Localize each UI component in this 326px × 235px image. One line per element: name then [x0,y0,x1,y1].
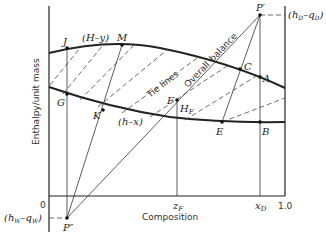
point-C [238,67,242,71]
point-K [101,108,105,112]
label-A: A [262,73,270,84]
label-P-prime: P′ [255,2,266,13]
label-J: J [61,36,68,47]
label-G: G [57,97,65,108]
label-hd-qd: (hD–qD) [288,9,323,21]
enthalpy-composition-diagram: J M G K F C A E B P′ P″ HF (H–y) (h–x) T… [0,0,326,235]
point-E [220,120,224,124]
label-upper-curve: (H–y) [82,32,109,43]
y-axis-label: Enthalpy/unit mass [31,58,41,145]
point-A [258,75,262,79]
label-hw-qw: (hW–qW) [4,212,42,224]
tick-xD: xD [255,200,267,213]
label-P-double-prime: P″ [62,222,74,233]
point-G [65,92,69,96]
point-B [258,120,262,124]
label-M: M [116,32,128,43]
label-E: E [215,126,224,137]
label-C: C [244,61,252,72]
label-tie-lines: Tie lines [144,69,180,100]
label-balance: balance [207,31,239,64]
point-F [175,98,179,102]
zero-label: 0 [40,200,46,210]
operating-line-K-M [67,45,122,218]
label-HF: HF [179,103,195,116]
x-axis-label: Composition [142,212,198,222]
label-lower-curve: (h–x) [118,116,143,127]
point-P-double-prime [65,216,69,220]
label-F: F [166,95,175,106]
tick-one: 1.0 [278,201,293,211]
label-B: B [261,126,269,137]
point-M [120,43,124,47]
point-P-prime [258,13,262,17]
label-overall: Overall [182,59,212,89]
label-K: K [92,110,101,121]
